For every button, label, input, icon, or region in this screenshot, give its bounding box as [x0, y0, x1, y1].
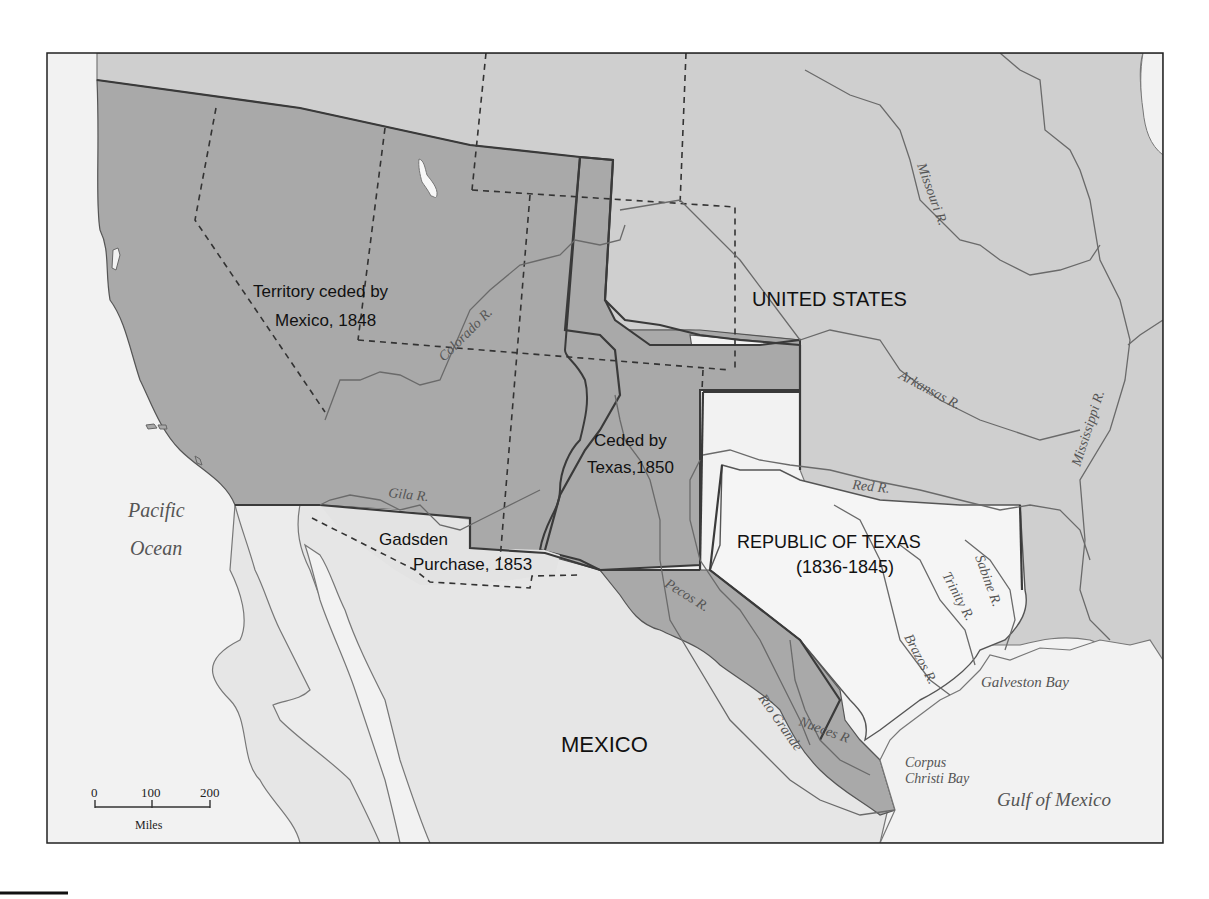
label-republic-of-texas-line2: (1836-1845): [796, 557, 894, 577]
channel-island-2: [158, 425, 167, 429]
scale-tick-200: 200: [200, 785, 220, 800]
label-mexico: MEXICO: [561, 732, 648, 757]
label-gadsden-line1: Gadsden: [379, 530, 448, 549]
label-republic-of-texas-line1: REPUBLIC OF TEXAS: [737, 532, 921, 552]
label-galveston-bay: Galveston Bay: [981, 674, 1069, 690]
label-corpus-line2: Christi Bay: [905, 771, 970, 786]
scale-tick-100: 100: [141, 785, 161, 800]
label-gadsden-line2: Purchase, 1853: [413, 555, 532, 574]
label-ceded-by-texas-line1: Ceded by: [594, 431, 667, 450]
label-corpus-line1: Corpus: [905, 755, 947, 770]
scale-tick-0: 0: [91, 785, 98, 800]
map-canvas: Territory ceded by Mexico, 1848 Ceded by…: [0, 0, 1209, 899]
scale-unit: Miles: [135, 818, 163, 832]
label-pacific-line2: Ocean: [130, 537, 182, 559]
label-united-states: UNITED STATES: [752, 288, 907, 310]
label-territory-ceded-line2: Mexico, 1848: [275, 311, 376, 330]
label-ceded-by-texas-line2: Texas,1850: [587, 458, 674, 477]
label-gulf-of-mexico: Gulf of Mexico: [997, 789, 1111, 810]
label-territory-ceded-line1: Territory ceded by: [253, 282, 389, 301]
label-pacific-line1: Pacific: [127, 499, 185, 522]
